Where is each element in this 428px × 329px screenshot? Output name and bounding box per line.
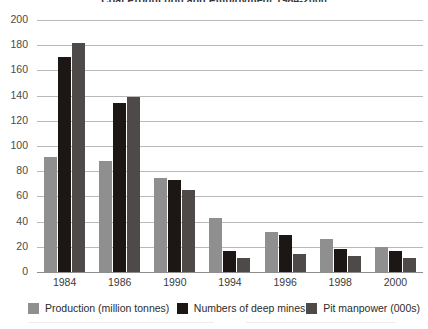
chart-legend: Production (million tonnes)Numbers of de…: [28, 302, 420, 314]
bar-group: [258, 20, 313, 272]
legend-item: Production (million tonnes): [28, 302, 177, 314]
x-axis-labels: 1984198619901994199619982000: [37, 276, 423, 288]
bar: [348, 256, 361, 272]
axis-baseline: [37, 272, 423, 273]
chart-title: Coal Production and Employment 1984-2000: [0, 0, 428, 2]
bar: [168, 180, 181, 272]
plot-area: 020406080100120140160180200: [37, 20, 423, 272]
bar-group: [147, 20, 202, 272]
bar: [209, 218, 222, 272]
bar: [72, 43, 85, 272]
y-axis-tick-label: 40: [0, 215, 28, 227]
bar: [403, 258, 416, 272]
y-axis-tick-label: 60: [0, 189, 28, 201]
y-axis-tick-label: 20: [0, 240, 28, 252]
legend-label: Production (million tonnes): [45, 302, 169, 314]
bar: [127, 97, 140, 272]
scan-artifact-line: [246, 322, 396, 323]
bar: [237, 258, 250, 272]
y-axis-tick-label: 0: [0, 265, 28, 277]
legend-item: Pit manpower (000s): [306, 302, 420, 314]
x-axis-tick-label: 1994: [202, 276, 257, 288]
x-axis-tick-label: 1996: [258, 276, 313, 288]
bar: [99, 161, 112, 272]
bar-group: [92, 20, 147, 272]
bar: [279, 235, 292, 272]
bar: [44, 157, 57, 272]
scan-artifact-line: [28, 322, 214, 323]
bar-group: [202, 20, 257, 272]
bar: [154, 178, 167, 273]
legend-label: Pit manpower (000s): [323, 302, 420, 314]
bar: [265, 232, 278, 272]
bar: [58, 57, 71, 272]
legend-label: Numbers of deep mines: [194, 302, 305, 314]
bar: [293, 254, 306, 272]
bar: [320, 239, 333, 272]
y-axis-tick-label: 200: [0, 13, 28, 25]
bar: [182, 190, 195, 272]
bar-group: [368, 20, 423, 272]
x-axis-tick-label: 2000: [368, 276, 423, 288]
x-axis-tick-label: 1984: [37, 276, 92, 288]
y-axis-tick-label: 140: [0, 89, 28, 101]
y-axis-tick-label: 80: [0, 164, 28, 176]
y-axis-tick-label: 120: [0, 114, 28, 126]
bar-group: [37, 20, 92, 272]
bar-group: [313, 20, 368, 272]
legend-swatch: [306, 303, 317, 314]
legend-swatch: [177, 303, 188, 314]
bar-chart: Coal Production and Employment 1984-2000…: [0, 0, 428, 329]
x-axis-tick-label: 1986: [92, 276, 147, 288]
bar: [375, 247, 388, 272]
bar-groups: [37, 20, 423, 272]
bar: [223, 251, 236, 272]
legend-swatch: [28, 303, 39, 314]
legend-item: Numbers of deep mines: [177, 302, 306, 314]
x-axis-tick-label: 1998: [313, 276, 368, 288]
bar: [113, 103, 126, 272]
x-axis-tick-label: 1990: [147, 276, 202, 288]
y-axis-tick-label: 100: [0, 139, 28, 151]
bar: [334, 249, 347, 272]
y-axis-tick-label: 160: [0, 63, 28, 75]
bar: [389, 251, 402, 272]
y-axis-tick-label: 180: [0, 38, 28, 50]
